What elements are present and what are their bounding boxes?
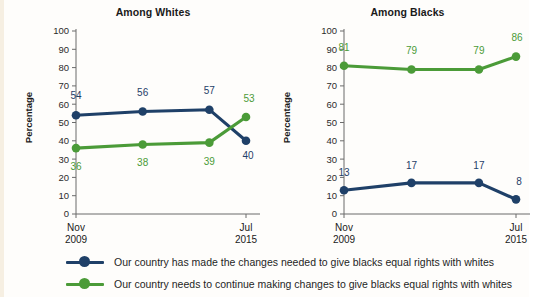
y-tick-label: 80 [326, 62, 337, 73]
legend-marker-green [66, 278, 104, 290]
data-point-label: 54 [70, 90, 82, 101]
series-line [76, 117, 246, 148]
panel-among-blacks: Among Blacks Percentage 0102030405060708… [274, 0, 533, 245]
data-point-label: 79 [473, 45, 485, 56]
data-point-marker [512, 195, 521, 204]
data-point-marker [242, 113, 251, 122]
data-point-label: 39 [204, 156, 216, 167]
series-line [344, 57, 516, 70]
y-tick-label: 100 [321, 25, 337, 36]
y-tick-label: 90 [326, 44, 337, 55]
data-point-label: 17 [406, 160, 418, 171]
y-tick-label: 40 [326, 135, 337, 146]
y-tick-label: 70 [326, 80, 337, 91]
data-point-marker [205, 138, 214, 147]
y-tick-label: 50 [326, 117, 337, 128]
data-point-marker [340, 186, 349, 195]
x-tick-label-month: Jul [510, 222, 523, 233]
data-point-label: 13 [338, 167, 350, 178]
data-point-label: 40 [242, 150, 254, 161]
y-tick-label: 100 [53, 25, 69, 36]
data-point-label: 57 [204, 85, 216, 96]
data-point-marker [72, 111, 81, 120]
y-tick-label: 50 [58, 117, 69, 128]
y-tick-label: 40 [58, 135, 69, 146]
data-point-label: 56 [137, 87, 149, 98]
y-tick-label: 80 [58, 62, 69, 73]
data-point-label: 79 [406, 45, 418, 56]
data-point-marker [407, 65, 416, 74]
y-tick-label: 20 [326, 172, 337, 183]
plot-area-blacks: 0102030405060708090100Nov2009Jul20151317… [274, 0, 533, 245]
data-point-marker [138, 107, 147, 116]
legend-marker-blue [66, 256, 104, 268]
data-point-label: 53 [243, 93, 255, 104]
y-tick-label: 0 [64, 208, 69, 219]
data-point-marker [475, 65, 484, 74]
x-tick-label-month: Jul [240, 222, 253, 233]
legend-item-continue-changes: Our country needs to continue making cha… [66, 274, 512, 294]
y-tick-label: 90 [58, 44, 69, 55]
data-point-marker [72, 144, 81, 153]
x-tick-label-year: 2015 [505, 234, 528, 245]
x-tick-label-year: 2009 [65, 234, 88, 245]
x-tick-label-year: 2009 [333, 234, 356, 245]
panel-among-whites: Among Whites Percentage 0102030405060708… [4, 0, 274, 245]
y-tick-label: 70 [58, 80, 69, 91]
series-line [344, 183, 516, 199]
data-point-label: 8 [516, 176, 522, 187]
chart-legend: Our country has made the changes needed … [4, 248, 533, 297]
data-point-marker [407, 179, 416, 188]
data-point-marker [512, 52, 521, 61]
data-point-marker [340, 61, 349, 70]
data-point-label: 36 [70, 161, 82, 172]
y-tick-label: 60 [58, 99, 69, 110]
y-tick-label: 20 [58, 172, 69, 183]
x-tick-label-month: Nov [335, 222, 353, 233]
y-tick-label: 10 [326, 190, 337, 201]
chart-panels: Among Whites Percentage 0102030405060708… [4, 0, 533, 245]
x-tick-label-month: Nov [67, 222, 85, 233]
data-point-label: 86 [511, 32, 523, 43]
legend-label-continue-changes: Our country needs to continue making cha… [114, 278, 512, 290]
data-point-marker [138, 140, 147, 149]
data-point-label: 17 [473, 160, 485, 171]
y-tick-label: 60 [326, 99, 337, 110]
y-tick-label: 10 [58, 190, 69, 201]
data-point-marker [475, 179, 484, 188]
data-point-marker [242, 137, 251, 146]
legend-item-made-changes: Our country has made the changes needed … [66, 252, 494, 272]
data-point-label: 38 [137, 157, 149, 168]
plot-area-whites: 0102030405060708090100Nov2009Jul20155456… [4, 0, 274, 245]
y-tick-label: 30 [58, 154, 69, 165]
y-tick-label: 30 [326, 154, 337, 165]
data-point-label: 81 [338, 42, 350, 53]
legend-label-made-changes: Our country has made the changes needed … [114, 256, 494, 268]
y-tick-label: 0 [332, 208, 337, 219]
x-tick-label-year: 2015 [235, 234, 258, 245]
data-point-marker [205, 105, 214, 114]
